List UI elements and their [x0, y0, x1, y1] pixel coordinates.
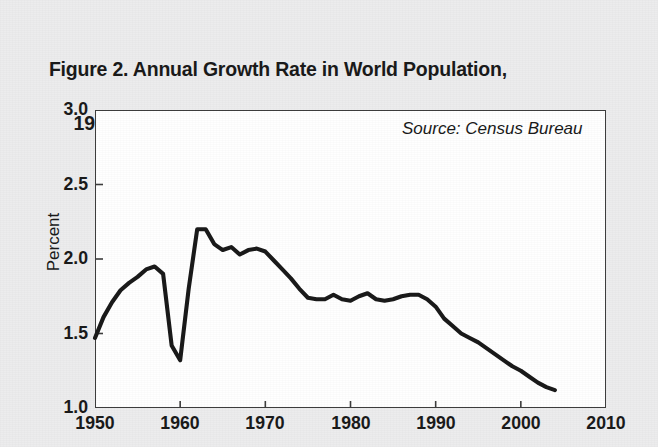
source-annotation: Source: Census Bureau: [402, 119, 583, 139]
y-axis-title: Percent: [44, 182, 64, 302]
x-axis-tick-label: 1970: [228, 412, 302, 434]
data-line-world-growth-rate: [95, 229, 555, 390]
x-axis-tick-label: 1950: [58, 412, 132, 434]
x-axis-tick-marks: [180, 401, 521, 408]
y-axis-tick-marks: [95, 185, 103, 334]
y-axis-tick-label: 3.0: [40, 98, 88, 120]
plot-surface: [95, 110, 606, 408]
figure-root: Figure 2. Annual Growth Rate in World Po…: [0, 0, 658, 447]
chart-plot-area: [95, 110, 606, 408]
x-axis-tick-label: 1980: [313, 412, 387, 434]
x-axis-tick-label: 1960: [143, 412, 217, 434]
x-axis-tick-label: 2000: [484, 412, 558, 434]
x-axis-tick-label: 1990: [398, 412, 472, 434]
x-axis-tick-label: 2010: [569, 412, 643, 434]
y-axis-tick-label: 1.5: [40, 322, 88, 344]
figure-title-line-1: Figure 2. Annual Growth Rate in World Po…: [49, 57, 507, 80]
